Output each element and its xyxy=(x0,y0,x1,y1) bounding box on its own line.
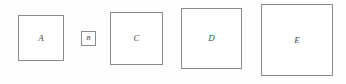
square-b-label: B xyxy=(86,35,90,42)
square-d-label: D xyxy=(208,34,215,43)
square-c-label: C xyxy=(133,34,139,43)
square-e-label: E xyxy=(294,36,300,45)
square-b: B xyxy=(81,31,96,46)
figure-canvas: ABCDE xyxy=(0,0,346,84)
square-d: D xyxy=(181,8,242,69)
square-e: E xyxy=(261,4,333,76)
square-a: A xyxy=(18,15,64,61)
square-a-label: A xyxy=(38,34,44,43)
square-c: C xyxy=(110,12,163,65)
